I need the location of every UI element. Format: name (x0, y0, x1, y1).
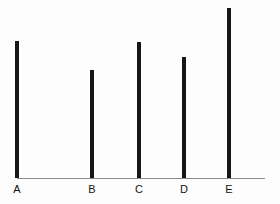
x-tick-label-b: B (80, 183, 104, 195)
x-tick-label-e: E (217, 183, 241, 195)
bar-chart: A B C D E (0, 0, 280, 204)
bar-c (137, 42, 141, 178)
bar-e (227, 8, 231, 178)
bar-b (90, 70, 94, 178)
bar-d (182, 57, 186, 178)
plot-area: A B C D E (0, 0, 280, 204)
x-tick-label-d: D (172, 183, 196, 195)
bar-a (15, 41, 19, 178)
x-tick-label-c: C (127, 183, 151, 195)
x-axis-line (17, 178, 265, 179)
x-tick-label-a: A (5, 183, 29, 195)
